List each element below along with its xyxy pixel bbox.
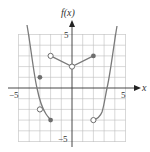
open-point bbox=[91, 118, 96, 123]
x-tick-min: −5 bbox=[9, 90, 19, 100]
closed-point bbox=[48, 118, 53, 123]
y-axis-label: f(x) bbox=[61, 7, 76, 19]
y-tick-min: −5 bbox=[58, 134, 68, 144]
open-point bbox=[48, 53, 53, 58]
right-curve bbox=[93, 26, 117, 120]
closed-point bbox=[38, 75, 43, 80]
open-point bbox=[37, 107, 42, 112]
closed-point bbox=[91, 54, 96, 59]
y-axis-arrow-icon bbox=[69, 20, 75, 27]
graph: f(x) x −5 5 5 −5 bbox=[0, 0, 150, 152]
left-curve bbox=[27, 25, 51, 120]
open-point bbox=[69, 64, 74, 69]
x-axis-label: x bbox=[141, 82, 147, 93]
x-tick-max: 5 bbox=[121, 90, 126, 100]
x-axis-arrow-icon bbox=[134, 85, 141, 91]
y-tick-max: 5 bbox=[64, 30, 69, 40]
